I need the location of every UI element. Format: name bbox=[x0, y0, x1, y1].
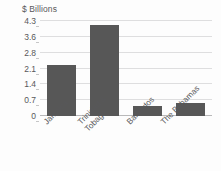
gridline bbox=[40, 20, 212, 21]
y-tick-label: 0.7 bbox=[2, 95, 36, 105]
y-tick-label: 3.6 bbox=[2, 32, 36, 42]
y-axis-title: $ Billions bbox=[22, 4, 57, 14]
y-tick-mark bbox=[36, 74, 39, 75]
y-tick-mark bbox=[36, 58, 39, 59]
bar-chart: $ Billions 4.33.62.82.11.40.70 JamaicaTr… bbox=[0, 0, 221, 171]
y-tick-label: 2.1 bbox=[2, 64, 36, 74]
gridline bbox=[40, 36, 212, 37]
y-tick-mark bbox=[36, 121, 39, 122]
x-axis-category-labels: JamaicaTrinidad & TobagoBarbadosThe Baha… bbox=[40, 116, 212, 171]
y-tick-label: 1.4 bbox=[2, 79, 36, 89]
gridline bbox=[40, 52, 212, 53]
y-tick-label: 0 bbox=[2, 111, 36, 121]
y-tick-mark bbox=[36, 89, 39, 90]
y-tick-mark bbox=[36, 42, 39, 43]
y-tick-mark bbox=[36, 105, 39, 106]
y-tick-mark bbox=[36, 26, 39, 27]
y-tick-label: 2.8 bbox=[2, 48, 36, 58]
y-tick-label: 4.3 bbox=[2, 16, 36, 26]
y-axis-tick-labels: 4.33.62.82.11.40.70 bbox=[0, 20, 36, 116]
